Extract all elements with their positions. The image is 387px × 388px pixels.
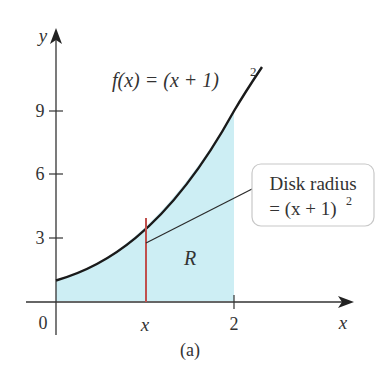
callout-line-2: = (x + 1): [269, 198, 336, 220]
origin-label: 0: [39, 313, 48, 333]
y-axis-label: y: [37, 25, 48, 46]
function-label: f(x) = (x + 1): [112, 69, 219, 92]
y-tick-label-3: 3: [36, 228, 45, 248]
callout-line-1: Disk radius: [269, 173, 356, 194]
y-tick-label-6: 6: [36, 164, 45, 184]
region-label: R: [183, 247, 196, 269]
x-axis-label: x: [338, 312, 348, 333]
x-tick-label-x: x: [140, 314, 150, 335]
function-label-exponent: 2: [250, 64, 257, 79]
diagram: Disk radius = (x + 1) 2 f(x) = (x + 1) 2…: [0, 0, 387, 388]
y-tick-label-9: 9: [36, 101, 45, 121]
callout-exponent: 2: [346, 194, 352, 208]
x-tick-label-2: 2: [230, 314, 239, 334]
figure-caption: (a): [180, 340, 200, 361]
